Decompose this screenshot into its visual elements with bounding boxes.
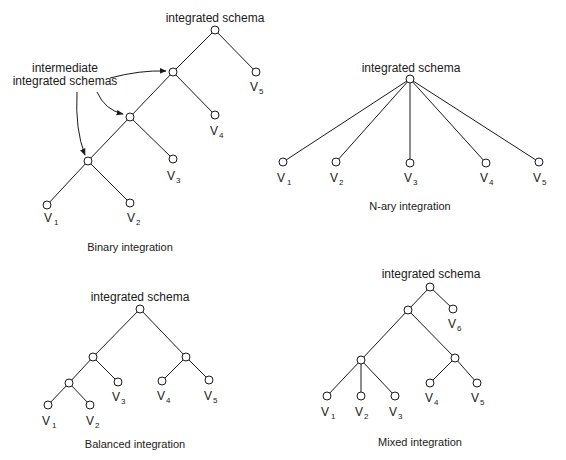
mixed-leaf-node [473, 379, 481, 387]
mixed-integration-tree: integrated schema V1 V2 V3 V4 V5 V6 Mixe… [321, 267, 485, 448]
leaf-label-v2: V2 [355, 405, 369, 421]
mixed-intermediate-node [404, 306, 412, 314]
mixed-root-label: integrated schema [382, 267, 481, 281]
nary-integration-tree: integrated schema V1 V2 V3 V4 V5 N-ary i… [277, 61, 547, 212]
balanced-root-label: integrated schema [91, 290, 190, 304]
binary-leaf-node [169, 155, 177, 163]
leaf-label-v3: V3 [404, 171, 418, 187]
leaf-label-v4: V4 [157, 389, 171, 405]
leaf-label-v4: V4 [480, 171, 494, 187]
leaf-label-v3: V3 [112, 390, 126, 406]
nary-leaf-node [535, 158, 543, 166]
leaf-label-v2: V2 [86, 414, 100, 430]
binary-caption: Binary integration [87, 241, 173, 253]
balanced-leaf-labels: V1 V2 V3 V4 V5 [42, 389, 218, 430]
leaf-label-v6: V6 [448, 317, 462, 333]
mixed-leaf-node [426, 379, 434, 387]
nary-leaf-labels: V1 V2 V3 V4 V5 [277, 171, 547, 187]
mixed-intermediate-node [357, 356, 365, 364]
binary-integration-tree: integrated schema intermediate integrate… [13, 11, 265, 253]
balanced-leaf-node [205, 376, 213, 384]
balanced-leaf-node [44, 401, 52, 409]
mixed-edges [327, 287, 477, 396]
mixed-nodes [323, 283, 481, 400]
balanced-leaf-node [158, 377, 166, 385]
leaf-label-v5: V5 [204, 389, 218, 405]
nary-leaf-node [332, 158, 340, 166]
balanced-root-node [136, 305, 144, 313]
binary-root-label: integrated schema [166, 11, 265, 25]
arrow-to-intermediate-middle [97, 92, 123, 114]
binary-leaf-node [126, 199, 134, 207]
nary-leaf-node [406, 159, 414, 167]
arrow-to-intermediate-top [110, 71, 166, 78]
binary-annotation-line2: integrated schemas [13, 74, 118, 88]
mixed-leaf-node [449, 305, 457, 313]
mixed-leaf-node [391, 392, 399, 400]
balanced-intermediate-node [182, 353, 190, 361]
binary-nodes [43, 26, 260, 209]
binary-leaf-node [211, 111, 219, 119]
leaf-label-v1: V1 [277, 171, 292, 187]
nary-edges [283, 79, 539, 163]
leaf-label-v1: V1 [44, 211, 59, 227]
binary-intermediate-node [126, 113, 134, 121]
nary-root-node [406, 75, 414, 83]
balanced-caption: Balanced integration [85, 438, 185, 450]
leaf-label-v5: V5 [250, 80, 264, 96]
nary-leaf-node [279, 158, 287, 166]
mixed-leaf-labels: V1 V2 V3 V4 V5 V6 [321, 317, 485, 421]
balanced-leaf-node [86, 401, 94, 409]
leaf-label-v1: V1 [321, 405, 336, 421]
binary-root-node [211, 26, 219, 34]
mixed-intermediate-node [451, 354, 459, 362]
balanced-leaf-node [114, 378, 122, 386]
nary-caption: N-ary integration [369, 200, 450, 212]
balanced-intermediate-node [89, 353, 97, 361]
arrow-to-intermediate-bottom [77, 92, 85, 155]
nary-root-label: integrated schema [362, 61, 461, 75]
leaf-label-v3: V3 [167, 169, 181, 185]
binary-intermediate-node [84, 157, 92, 165]
leaf-label-v1: V1 [42, 414, 57, 430]
leaf-label-v2: V2 [330, 171, 344, 187]
mixed-root-node [426, 283, 434, 291]
leaf-label-v2: V2 [127, 211, 141, 227]
leaf-label-v5: V5 [471, 391, 485, 407]
mixed-caption: Mixed integration [378, 436, 462, 448]
mixed-leaf-node [357, 392, 365, 400]
binary-annotation-line1: intermediate [32, 61, 98, 75]
balanced-integration-tree: integrated schema V1 V2 V3 V4 V5 Balance… [42, 290, 218, 450]
binary-intermediate-node [169, 68, 177, 76]
leaf-label-v4: V4 [210, 124, 224, 140]
binary-leaf-node [43, 201, 51, 209]
binary-edges [47, 30, 256, 205]
leaf-label-v3: V3 [389, 405, 403, 421]
nary-leaf-node [482, 159, 490, 167]
balanced-intermediate-node [65, 379, 73, 387]
binary-leaf-node [252, 68, 260, 76]
mixed-leaf-node [323, 392, 331, 400]
schema-integration-diagram: integrated schema intermediate integrate… [0, 0, 566, 460]
leaf-label-v4: V4 [425, 391, 439, 407]
leaf-label-v5: V5 [533, 171, 547, 187]
nary-nodes [279, 75, 543, 167]
